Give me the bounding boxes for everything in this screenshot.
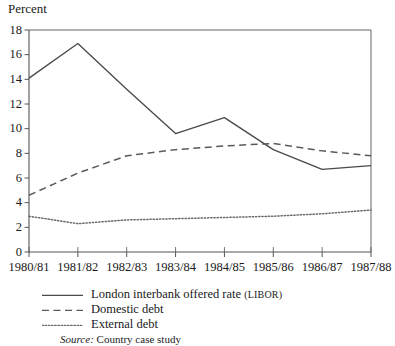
y-tick-label: 18 [2,24,22,37]
legend-label: London interbank offered rate (LIBOR) [91,288,282,302]
x-tick-label: 1983/84 [152,261,200,274]
y-tick-label: 4 [2,196,22,209]
chart-legend: London interbank offered rate (LIBOR)Dom… [42,288,372,333]
legend-label-abbrev: (LIBOR) [244,289,282,300]
y-tick-label: 0 [2,246,22,259]
y-tick-label: 10 [2,122,22,135]
source-value: Country case study [97,333,181,345]
series-group [29,44,371,224]
x-tick-label: 1987/88 [347,261,395,274]
legend-libor: London interbank offered rate (LIBOR) [42,288,372,302]
legend-line-sample [42,324,83,326]
x-tick-label: 1984/85 [200,261,248,274]
legend-domestic-debt: Domestic debt [42,303,372,317]
legend-external-debt: External debt [42,318,372,332]
x-tick-label: 1986/87 [298,261,346,274]
legend-line-sample [42,309,83,311]
x-tick-label: 1981/82 [54,261,102,274]
source-prefix: Source: [60,333,94,345]
x-tick-label: 1982/83 [103,261,151,274]
y-tick-label: 2 [2,221,22,234]
y-tick-label: 8 [2,147,22,160]
x-tick-label: 1980/81 [5,261,53,274]
y-tick-label: 14 [2,73,22,86]
y-tick-label: 12 [2,98,22,111]
y-tick-label: 6 [2,172,22,185]
legend-label: Domestic debt [91,303,164,317]
legend-label: External debt [91,318,158,332]
x-tick-label: 1985/86 [249,261,297,274]
y-tick-label: 16 [2,48,22,61]
series-line-1 [29,143,371,195]
source-note: Source: Country case study [60,333,181,346]
series-line-2 [29,210,371,224]
legend-line-sample [42,294,83,296]
